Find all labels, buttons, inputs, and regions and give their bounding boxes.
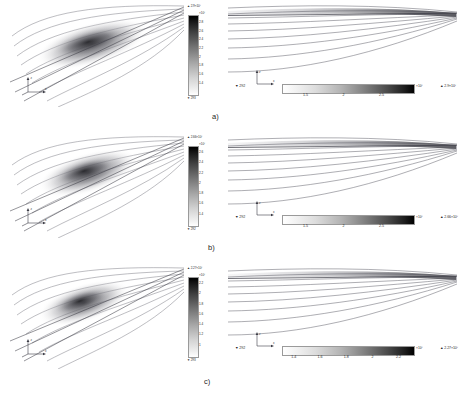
subfigure-caption-a: a) xyxy=(212,112,219,121)
colorbar-tick: 2.6 xyxy=(199,30,203,33)
colorbar-max-label-c-right: ▲ 2.27×10⁷ xyxy=(440,346,458,350)
colorbar-tick: 1.6 xyxy=(199,313,203,316)
axis-label-x: x xyxy=(45,218,47,222)
colorbar-tick: 1.4 xyxy=(199,82,203,85)
figure-row-a: z x ▲ 2.9×10⁷ ×10⁷ 2.8 2.6 2.4 2.2 2 1.8… xyxy=(0,0,465,130)
colorbar-tick: 2 xyxy=(371,355,373,359)
colorbar-max-label-a-right: ▲ 2.9×10⁷ xyxy=(440,84,456,88)
colorbar-tick: 1.2 xyxy=(199,334,203,337)
colorbar-tick: 1.8 xyxy=(199,303,203,306)
axis-triad-b-left: z x xyxy=(20,205,48,227)
horizontal-colorbar-b[interactable]: ×10⁷ ▲ 2.66×10⁷ 1.5 2 2.5 xyxy=(282,215,465,237)
colorbar-tick: 2 xyxy=(199,293,201,296)
colorbar-ticks-c-right: 1.4 1.6 1.8 2 2.2 xyxy=(282,355,413,363)
colorbar-tick: 2.4 xyxy=(199,162,203,165)
figure-row-c: z x ▲ 2.27×10⁷ ×10⁷ 2.2 2 1.8 1.6 1.4 1.… xyxy=(0,262,465,392)
colorbar-tick: 2 xyxy=(343,93,345,97)
axis-label-z: z xyxy=(259,332,261,336)
colorbar-gradient-c-left[interactable] xyxy=(188,277,199,358)
axis-label-z: z xyxy=(259,70,261,74)
colorbar-tick: 1.4 xyxy=(199,324,203,327)
colorbar-exponent-a-right: ×10⁷ xyxy=(416,84,423,88)
figure-root: z x ▲ 2.9×10⁷ ×10⁷ 2.8 2.6 2.4 2.2 2 1.8… xyxy=(0,0,465,412)
axis-triad-b-right: z x xyxy=(250,199,276,219)
axis-triad-c-left: z x xyxy=(20,336,48,358)
colorbar-tick: 1.8 xyxy=(199,65,203,68)
vertical-colorbar-c[interactable]: ▲ 2.27×10⁷ ×10⁷ 2.2 2 1.8 1.6 1.4 1.2 1 … xyxy=(188,266,228,370)
horizontal-colorbar-a[interactable]: ×10⁷ ▲ 2.9×10⁷ 1.5 2 2.5 xyxy=(282,84,465,106)
colorbar-tick: 1.8 xyxy=(199,193,203,196)
axis-label-z: z xyxy=(259,201,261,205)
colorbar-ticks-a-left: 2.8 2.6 2.4 2.2 2 1.8 1.6 1.4 xyxy=(199,15,227,94)
figure-row-b: z x ▲ 2.66×10⁷ ×10⁷ 2.6 2.4 2.2 2 1.8 1.… xyxy=(0,131,465,261)
colorbar-max-label-c-left: ▲ 2.27×10⁷ xyxy=(187,266,202,270)
colorbar-min-label-b-right: ▼ 292 xyxy=(235,215,245,219)
horizontal-colorbar-c[interactable]: ×10⁷ ▲ 2.27×10⁷ 1.4 1.6 1.8 2 2.2 xyxy=(282,346,465,368)
colorbar-min-label-a-left: ▼ 293 xyxy=(187,96,196,100)
colorbar-tick: 2 xyxy=(343,224,345,228)
colorbar-tick: 2.2 xyxy=(396,355,401,359)
colorbar-gradient-b-left[interactable] xyxy=(188,146,199,227)
axis-triad-a-left: z x xyxy=(20,74,48,96)
colorbar-tick: 2.4 xyxy=(199,39,203,42)
colorbar-tick: 1.4 xyxy=(199,213,203,216)
subfigure-caption-b: b) xyxy=(208,243,215,252)
vertical-colorbar-a[interactable]: ▲ 2.9×10⁷ ×10⁷ 2.8 2.6 2.4 2.2 2 1.8 1.6… xyxy=(188,4,228,108)
colorbar-min-label-b-left: ▼ 292 xyxy=(187,227,196,231)
colorbar-max-label-b-right: ▲ 2.66×10⁷ xyxy=(440,215,458,219)
axis-label-x: x xyxy=(45,349,47,353)
axis-label-x: x xyxy=(45,87,47,91)
colorbar-max-label-a-left: ▲ 2.9×10⁷ xyxy=(187,4,201,8)
axis-label-x: x xyxy=(273,341,275,345)
vertical-colorbar-b[interactable]: ▲ 2.66×10⁷ ×10⁷ 2.6 2.4 2.2 2 1.8 1.6 1.… xyxy=(188,135,228,239)
colorbar-exponent-c-right: ×10⁷ xyxy=(416,346,423,350)
axis-triad-c-right: z x xyxy=(250,330,276,350)
colorbar-tick: 2 xyxy=(199,56,201,59)
axis-label-x: x xyxy=(273,210,275,214)
colorbar-tick: 2.6 xyxy=(199,152,203,155)
colorbar-tick: 2.2 xyxy=(199,47,203,50)
colorbar-gradient-a-left[interactable] xyxy=(188,15,199,96)
colorbar-tick: 1.4 xyxy=(291,355,296,359)
colorbar-tick: 1.5 xyxy=(303,224,308,228)
colorbar-exponent-b-right: ×10⁷ xyxy=(416,215,423,219)
colorbar-tick: 1.6 xyxy=(199,73,203,76)
colorbar-tick: 1.8 xyxy=(344,355,349,359)
colorbar-tick: 2.2 xyxy=(199,172,203,175)
colorbar-tick: 2.8 xyxy=(199,21,203,24)
colorbar-ticks-b-right: 1.5 2 2.5 xyxy=(282,224,413,232)
colorbar-tick: 2.2 xyxy=(199,283,203,286)
colorbar-min-label-a-right: ▼ 292 xyxy=(235,84,245,88)
colorbar-max-label-b-left: ▲ 2.66×10⁷ xyxy=(187,135,202,139)
axis-label-x: x xyxy=(273,79,275,83)
colorbar-min-label-c-right: ▼ 292 xyxy=(235,346,245,350)
colorbar-tick: 2 xyxy=(199,182,201,185)
colorbar-tick: 2.5 xyxy=(379,93,384,97)
axis-label-z: z xyxy=(31,76,33,80)
axis-label-z: z xyxy=(31,338,33,342)
colorbar-tick: 1.6 xyxy=(317,355,322,359)
colorbar-ticks-c-left: 2.2 2 1.8 1.6 1.4 1.2 1 xyxy=(199,277,227,356)
colorbar-tick: 1.6 xyxy=(199,203,203,206)
axis-triad-a-right: z x xyxy=(250,68,276,88)
colorbar-tick: 2.5 xyxy=(379,224,384,228)
colorbar-min-label-c-left: ▼ 293 xyxy=(187,358,196,362)
colorbar-tick: 1.5 xyxy=(303,93,308,97)
axis-label-z: z xyxy=(31,207,33,211)
colorbar-tick: 1 xyxy=(199,344,201,347)
colorbar-ticks-b-left: 2.6 2.4 2.2 2 1.8 1.6 1.4 xyxy=(199,146,227,225)
subfigure-caption-c: c) xyxy=(204,377,210,386)
colorbar-ticks-a-right: 1.5 2 2.5 xyxy=(282,93,413,101)
